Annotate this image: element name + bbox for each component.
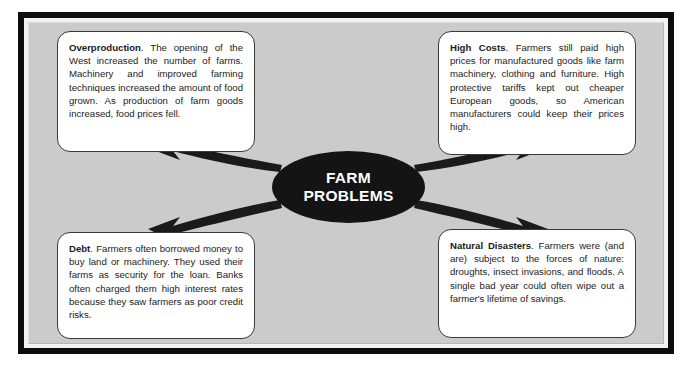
diagram-page: FARM PROBLEMS Overproduction. The openin…	[0, 0, 692, 369]
diagram-canvas: FARM PROBLEMS Overproduction. The openin…	[28, 22, 664, 344]
hub-label-line2: PROBLEMS	[303, 187, 393, 205]
node-heading-natural-disasters: Natural Disasters	[450, 240, 531, 251]
hub-label-line1: FARM	[326, 169, 371, 187]
node-heading-debt: Debt	[69, 243, 90, 254]
node-heading-high-costs: High Costs	[450, 42, 505, 53]
node-heading-overproduction: Overproduction	[69, 42, 141, 53]
node-box-overproduction: Overproduction. The opening of the West …	[57, 31, 255, 152]
node-box-debt: Debt. Farmers often borrowed money to bu…	[57, 232, 255, 339]
node-box-high-costs: High Costs. Farmers still paid high pric…	[438, 31, 636, 155]
node-body-overproduction: . The opening of the West increased the …	[69, 42, 243, 119]
central-node-farm-problems: FARM PROBLEMS	[272, 151, 425, 223]
node-box-natural-disasters: Natural Disasters. Farmers were (and are…	[438, 229, 636, 338]
node-body-high-costs: . Farmers still paid high prices for man…	[450, 42, 624, 132]
node-body-debt: . Farmers often borrowed money to buy la…	[69, 243, 243, 320]
